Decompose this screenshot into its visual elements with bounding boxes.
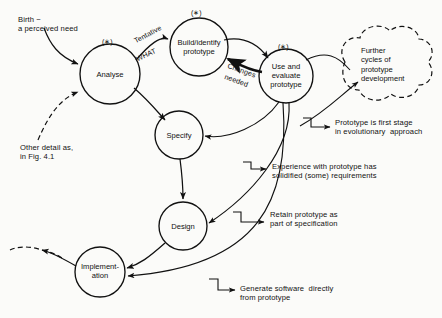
annotation-experience-solidified: Experience with prototype has solidified… xyxy=(272,163,377,181)
edge-other-detail-to-analyse xyxy=(38,92,78,140)
diagram-canvas: (∗) (∗) (∗) Analyse Build/identify proto… xyxy=(0,0,442,318)
node-label-analyse: Analyse xyxy=(70,70,150,79)
node-label-use: Use and evaluate prototype xyxy=(250,62,322,89)
annotation-birth: Birth − a perceived need xyxy=(18,16,78,34)
edge-analyse-to-specify xyxy=(134,88,165,120)
asterisk-marker-build: (∗) xyxy=(191,9,202,17)
edge-exit-dashed-tail xyxy=(10,247,62,258)
leader-generate-software xyxy=(209,279,235,290)
node-label-implementation: Implement- ation xyxy=(64,262,136,280)
edge-use-to-implementation xyxy=(128,103,284,276)
cloud-label-further-cycles: Further cycles of prototype development xyxy=(361,46,404,84)
annotation-prototype-first-stage: Prototype is first stage in evolutionary… xyxy=(335,119,422,137)
edge-use-to-specify xyxy=(205,102,279,137)
leader-experience-solidified xyxy=(243,162,266,169)
asterisk-marker-use: (∗) xyxy=(278,43,289,51)
edge-specify-to-design xyxy=(180,159,183,199)
asterisk-marker-analyse: (∗) xyxy=(102,38,113,46)
node-label-build: Build/identify prototype xyxy=(159,38,239,56)
annotation-retain-prototype: Retain prototype as part of specificatio… xyxy=(270,211,338,229)
annotation-generate-software: Generate software directly from prototyp… xyxy=(240,285,333,303)
annotation-other-detail: Other detail as, in Fig. 4.1 xyxy=(20,144,73,162)
node-label-specify: Specify xyxy=(144,131,214,140)
leader-prototype-first-stage xyxy=(303,118,330,127)
node-label-design: Design xyxy=(148,222,218,231)
